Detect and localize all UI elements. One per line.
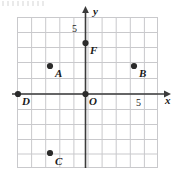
x-axis-tick-label-5: 5 (136, 97, 141, 108)
coordinate-plane-figure: A B C D F O 5 5 y x (0, 0, 177, 173)
scan-artifact (2, 1, 46, 6)
origin-marker (82, 91, 88, 97)
point-d-marker (15, 91, 21, 97)
point-c-label: C (55, 155, 63, 167)
point-f-label: F (89, 44, 98, 56)
y-axis-label: y (91, 5, 98, 17)
x-axis-label: x (164, 94, 171, 106)
point-c-marker (47, 150, 53, 156)
coordinate-plane-svg: A B C D F O 5 5 y x (0, 0, 177, 173)
point-b-marker (131, 63, 137, 69)
point-d-label: D (21, 95, 30, 107)
point-a-label: A (54, 67, 62, 79)
point-f-marker (82, 40, 88, 46)
point-a-marker (47, 63, 53, 69)
y-axis-arrow-icon (82, 6, 89, 13)
origin-label: O (89, 95, 97, 107)
y-axis-tick-label-5: 5 (72, 23, 77, 34)
point-b-label: B (138, 67, 146, 79)
